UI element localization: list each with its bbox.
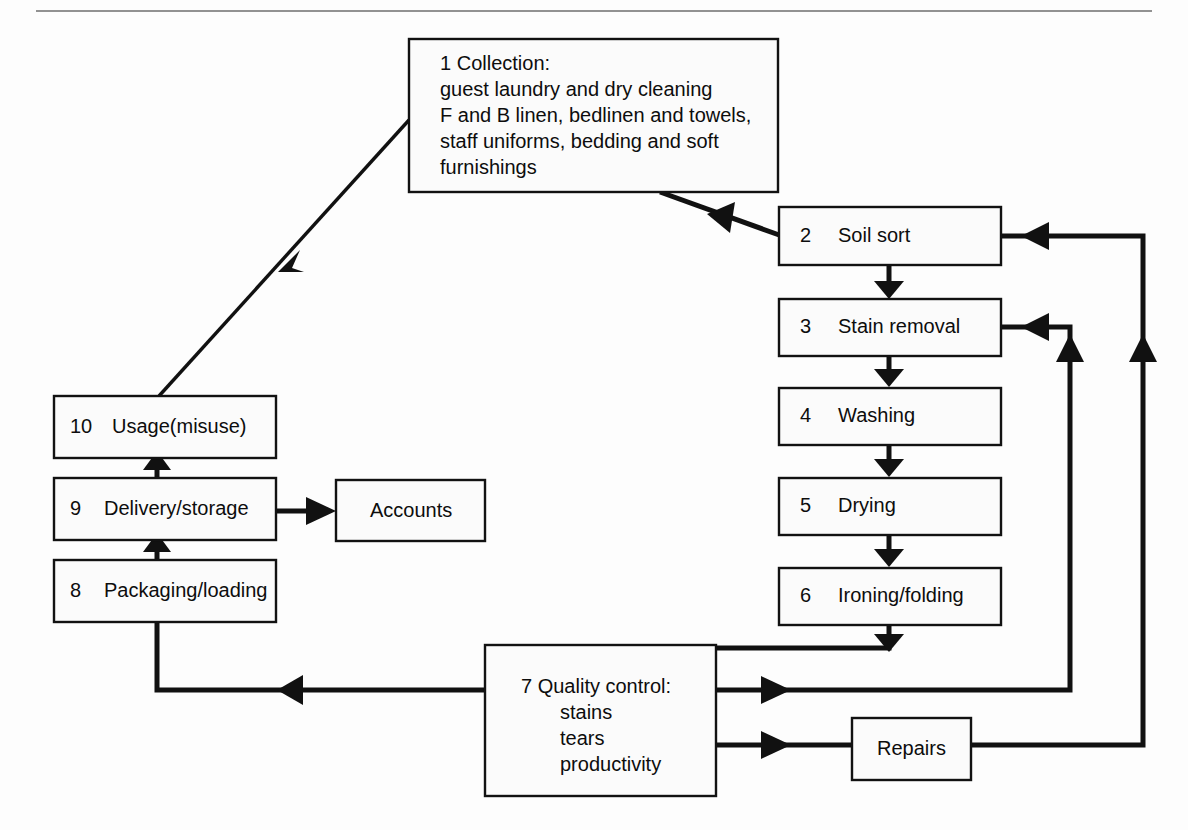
node-packaging-loading[interactable]: 8 Packaging/loading <box>54 560 276 622</box>
quality-control-title: Quality control: <box>538 675 671 697</box>
ironing-folding-number: 6 <box>800 584 811 606</box>
flowchart-canvas: 1 Collection: guest laundry and dry clea… <box>0 0 1188 830</box>
washing-number: 4 <box>800 404 811 426</box>
connector-quality-control-to-repairs <box>716 731 852 759</box>
collection-number: 1 <box>440 52 451 74</box>
connector-collection-to-soil-sort <box>660 192 782 236</box>
collection-line-1: guest laundry and dry cleaning <box>440 78 712 100</box>
repairs-label: Repairs <box>877 737 946 759</box>
stain-removal-number: 3 <box>800 315 811 337</box>
connector-ironing-to-quality-control <box>716 625 904 652</box>
soil-sort-number: 2 <box>800 224 811 246</box>
quality-control-number: 7 <box>521 675 532 697</box>
node-collection[interactable]: 1 Collection: guest laundry and dry clea… <box>409 39 778 192</box>
flowchart-figure: 1 Collection: guest laundry and dry clea… <box>0 0 1188 830</box>
accounts-label: Accounts <box>370 499 452 521</box>
quality-control-item-3: productivity <box>560 753 661 775</box>
node-soil-sort[interactable]: 2 Soil sort <box>779 207 1001 265</box>
connector-quality-control-to-packaging <box>157 622 485 705</box>
node-repairs[interactable]: Repairs <box>852 718 971 780</box>
connector-soil-sort-to-stain-removal <box>874 265 904 299</box>
connector-delivery-to-accounts <box>276 497 336 525</box>
connector-drying-to-ironing <box>874 535 904 567</box>
collection-line-3: staff uniforms, bedding and soft <box>440 130 719 152</box>
collection-line-2: F and B linen, bedlinen and towels, <box>440 104 751 126</box>
quality-control-item-1: stains <box>560 701 612 723</box>
collection-title: Collection: <box>457 52 550 74</box>
quality-control-item-2: tears <box>560 727 604 749</box>
svg-text:1 Collection:: 1 Collection: <box>440 52 550 74</box>
usage-misuse-label: Usage(misuse) <box>112 415 246 437</box>
node-accounts[interactable]: Accounts <box>336 480 485 541</box>
delivery-storage-number: 9 <box>70 497 81 519</box>
drying-number: 5 <box>800 494 811 516</box>
node-stain-removal[interactable]: 3 Stain removal <box>779 299 1001 356</box>
connector-stain-removal-to-washing <box>874 355 904 387</box>
connector-washing-to-drying <box>874 445 904 477</box>
connector-usage-to-collection <box>159 120 409 396</box>
node-usage-misuse[interactable]: 10 Usage(misuse) <box>54 396 276 458</box>
node-washing[interactable]: 4 Washing <box>779 388 1001 445</box>
node-drying[interactable]: 5 Drying <box>779 478 1001 535</box>
collection-line-4: furnishings <box>440 156 537 178</box>
soil-sort-label: Soil sort <box>838 224 911 246</box>
packaging-loading-label: Packaging/loading <box>104 579 267 601</box>
delivery-storage-label: Delivery/storage <box>104 497 249 519</box>
node-delivery-storage[interactable]: 9 Delivery/storage <box>54 478 276 540</box>
washing-label: Washing <box>838 404 915 426</box>
usage-misuse-number: 10 <box>70 415 92 437</box>
svg-text:7 Quality control:: 7 Quality control: <box>521 675 671 697</box>
drying-label: Drying <box>838 494 896 516</box>
stain-removal-label: Stain removal <box>838 315 960 337</box>
packaging-loading-number: 8 <box>70 579 81 601</box>
node-quality-control[interactable]: 7 Quality control: stains tears producti… <box>485 645 716 796</box>
ironing-folding-label: Ironing/folding <box>838 584 964 606</box>
node-ironing-folding[interactable]: 6 Ironing/folding <box>779 568 1001 625</box>
